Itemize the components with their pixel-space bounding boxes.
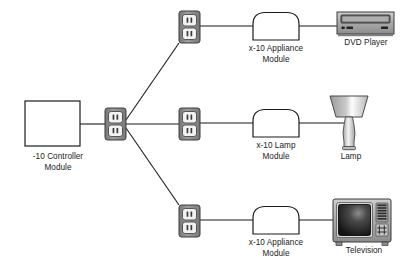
lamp-label: Lamp [330, 152, 372, 163]
outlet-bottom-shape[interactable] [179, 205, 200, 237]
module-bottom-shape[interactable] [253, 207, 299, 235]
dvd-player-shape[interactable] [337, 12, 394, 36]
module-top-label: x-10 Appliance Module [221, 44, 331, 65]
wire-main-outlet-to-bottom-outlet [126, 128, 179, 205]
outlet-top-shape[interactable] [179, 11, 200, 43]
television-shape[interactable] [333, 199, 391, 246]
wire-main-outlet-to-top-outlet [126, 43, 179, 120]
television-label: Television [330, 246, 398, 257]
module-bottom-label: x-10 Appliance Module [221, 238, 331, 259]
controller-module-shape[interactable] [25, 101, 80, 146]
module-middle-label: x-10 Lamp Module [221, 141, 331, 162]
controller-module-label: -10 Controller Module [2, 152, 114, 173]
diagram-canvas: -10 Controller Module x-10 Appliance Mod… [0, 0, 413, 264]
dvd-player-label: DVD Player [330, 38, 402, 49]
outlet-main-shape[interactable] [105, 108, 126, 140]
module-middle-shape[interactable] [253, 110, 299, 138]
module-top-shape[interactable] [253, 13, 299, 41]
outlet-middle-shape[interactable] [179, 108, 200, 140]
